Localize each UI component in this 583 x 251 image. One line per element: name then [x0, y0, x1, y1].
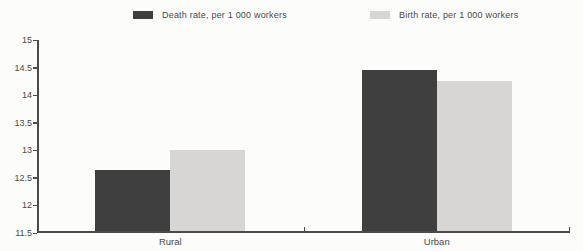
category-label-urban: Urban — [397, 236, 477, 247]
y-axis-tick-label: 14.5 — [0, 63, 32, 73]
x-axis-tick-mark — [569, 227, 571, 231]
y-axis-tick-mark — [33, 122, 37, 124]
x-axis-tick-mark — [37, 227, 39, 231]
x-axis-tick-mark — [304, 227, 306, 231]
legend-item-death-rate: Death rate, per 1 000 workers — [133, 10, 287, 20]
legend-label-death-rate: Death rate, per 1 000 workers — [162, 10, 287, 20]
bar-chart: Death rate, per 1 000 workers Birth rate… — [0, 0, 583, 251]
category-label-rural: Rural — [130, 236, 210, 247]
legend-swatch-death-rate — [133, 11, 153, 19]
bar-urban-death-rate — [362, 70, 437, 231]
y-axis-tick-label: 13.5 — [0, 118, 32, 128]
y-axis-tick-label: 12.5 — [0, 173, 32, 183]
bar-rural-birth-rate — [170, 150, 245, 231]
legend-item-birth-rate: Birth rate, per 1 000 workers — [370, 10, 518, 20]
y-axis-tick-mark — [33, 205, 37, 207]
y-axis-tick-mark — [33, 40, 37, 42]
y-axis-tick-mark — [33, 150, 37, 152]
y-axis-tick-label: 14 — [0, 90, 32, 100]
y-axis-tick-mark — [33, 95, 37, 97]
y-axis-tick-label: 12 — [0, 200, 32, 210]
y-axis-tick-label: 11.5 — [0, 228, 32, 238]
y-axis-tick-mark — [33, 177, 37, 179]
y-axis-tick-label: 15 — [0, 35, 32, 45]
y-axis-tick-label: 13 — [0, 145, 32, 155]
legend-swatch-birth-rate — [370, 11, 390, 19]
y-axis-tick-mark — [33, 67, 37, 69]
y-axis-tick-mark — [33, 233, 37, 235]
bar-rural-death-rate — [95, 170, 170, 231]
legend-label-birth-rate: Birth rate, per 1 000 workers — [399, 10, 518, 20]
bar-urban-birth-rate — [437, 81, 512, 231]
